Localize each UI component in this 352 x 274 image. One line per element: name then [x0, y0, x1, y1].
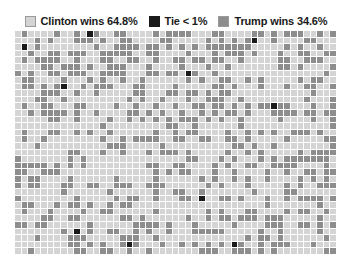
waffle-cell [291, 71, 297, 77]
waffle-cell [317, 202, 323, 208]
waffle-cell [186, 38, 192, 44]
waffle-cell [271, 229, 277, 235]
waffle-cell [100, 117, 106, 123]
waffle-cell [166, 163, 172, 169]
waffle-cell [212, 169, 218, 175]
waffle-cell [68, 44, 74, 50]
waffle-cell [133, 97, 139, 103]
waffle-cell [133, 202, 139, 208]
waffle-cell [173, 169, 179, 175]
waffle-cell [100, 77, 106, 83]
legend-swatch-trump-icon [218, 16, 229, 27]
waffle-cell [245, 143, 251, 149]
waffle-cell [186, 150, 192, 156]
waffle-cell [265, 38, 271, 44]
waffle-cell [61, 176, 67, 182]
legend-item-tie[interactable]: Tie < 1% [149, 16, 208, 27]
waffle-cell [304, 51, 310, 57]
waffle-cell [28, 38, 34, 44]
waffle-cell [146, 117, 152, 123]
waffle-cell [61, 209, 67, 215]
waffle-cell [291, 97, 297, 103]
waffle-cell [225, 136, 231, 142]
waffle-cell [173, 183, 179, 189]
waffle-cell [304, 84, 310, 90]
waffle-cell [87, 84, 93, 90]
waffle-cell [22, 242, 28, 248]
waffle-cell [61, 90, 67, 96]
waffle-cell [330, 44, 336, 50]
legend-item-clinton[interactable]: Clinton wins 64.8% [25, 16, 138, 27]
waffle-cell [61, 196, 67, 202]
waffle-cell [94, 71, 100, 77]
waffle-cell [107, 235, 113, 241]
waffle-cell [278, 77, 284, 83]
waffle-cell [252, 143, 258, 149]
waffle-cell [271, 248, 277, 254]
waffle-cell [278, 44, 284, 50]
waffle-cell [133, 189, 139, 195]
waffle-cell [140, 196, 146, 202]
waffle-cell [219, 44, 225, 50]
waffle-cell [311, 90, 317, 96]
waffle-cell [41, 38, 47, 44]
waffle-cell [245, 136, 251, 142]
waffle-cell [61, 64, 67, 70]
waffle-cell [291, 196, 297, 202]
waffle-cell [212, 77, 218, 83]
waffle-cell [153, 84, 159, 90]
waffle-cell [166, 143, 172, 149]
waffle-cell [311, 57, 317, 63]
waffle-cell [48, 110, 54, 116]
waffle-cell [54, 90, 60, 96]
waffle-cell [265, 110, 271, 116]
waffle-cell [133, 130, 139, 136]
waffle-cell [271, 189, 277, 195]
waffle-cell [225, 215, 231, 221]
waffle-cell [74, 215, 80, 221]
waffle-cell [68, 84, 74, 90]
waffle-cell [74, 64, 80, 70]
waffle-cell [48, 71, 54, 77]
waffle-cell [114, 71, 120, 77]
waffle-cell [199, 196, 205, 202]
waffle-cell [140, 150, 146, 156]
waffle-cell [219, 110, 225, 116]
legend-item-trump[interactable]: Trump wins 34.6% [218, 16, 327, 27]
waffle-cell [252, 169, 258, 175]
waffle-cell [35, 31, 41, 37]
waffle-cell [199, 64, 205, 70]
waffle-cell [199, 90, 205, 96]
waffle-cell [330, 235, 336, 241]
waffle-cell [245, 183, 251, 189]
waffle-cell [311, 143, 317, 149]
waffle-cell [127, 215, 133, 221]
waffle-cell [166, 150, 172, 156]
waffle-cell [298, 196, 304, 202]
waffle-cell [186, 235, 192, 241]
waffle-cell [278, 130, 284, 136]
waffle-cell [28, 183, 34, 189]
waffle-cell [245, 31, 251, 37]
waffle-cell [258, 44, 264, 50]
waffle-cell [160, 176, 166, 182]
waffle-cell [179, 163, 185, 169]
waffle-cell [212, 156, 218, 162]
waffle-cell [186, 183, 192, 189]
waffle-cell [298, 71, 304, 77]
waffle-cell [232, 84, 238, 90]
waffle-cell [127, 51, 133, 57]
waffle-cell [107, 123, 113, 129]
waffle-cell [81, 110, 87, 116]
waffle-cell [54, 189, 60, 195]
waffle-cell [199, 103, 205, 109]
waffle-cell [81, 97, 87, 103]
waffle-cell [265, 183, 271, 189]
waffle-cell [114, 77, 120, 83]
waffle-cell [133, 51, 139, 57]
waffle-cell [330, 71, 336, 77]
waffle-cell [291, 136, 297, 142]
waffle-cell [298, 163, 304, 169]
waffle-cell [100, 103, 106, 109]
waffle-cell [186, 110, 192, 116]
